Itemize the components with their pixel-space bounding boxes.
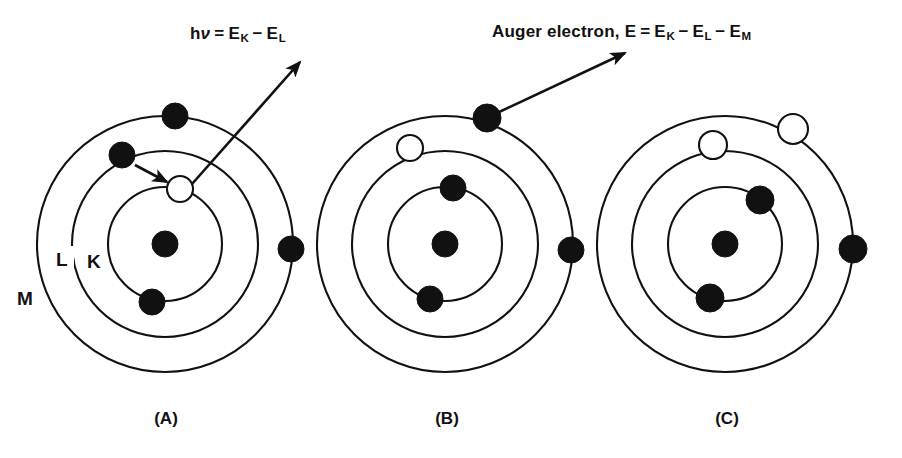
photon-term1: E <box>228 24 240 43</box>
photon-term2-sub: L <box>279 32 286 44</box>
panel-c-electron-k-bottom <box>696 284 724 312</box>
panel-a-shell-label-l: L <box>56 249 68 270</box>
panel-b: (B) <box>317 53 625 428</box>
photon-h: h <box>190 24 201 43</box>
panel-b-electron-m-top <box>473 104 501 132</box>
panel-a-caption: (A) <box>154 409 178 428</box>
panel-a-electron-m-right <box>278 236 304 262</box>
photon-equals: = <box>210 24 228 43</box>
panel-b-electron-k-top <box>440 175 466 201</box>
auger-minus1: − <box>674 22 692 41</box>
auger-electron-formula: Auger electron, E=EK−EL−EM <box>492 22 751 42</box>
panel-a-electron-m-top <box>162 103 188 129</box>
panel-c-vacancy-l <box>699 131 727 159</box>
panel-c-electron-k-top <box>746 186 774 214</box>
panel-b-caption: (B) <box>435 409 459 428</box>
panel-a-shell-label-k: K <box>87 251 101 272</box>
auger-energy-symbol: E <box>625 22 637 41</box>
auger-term2: E <box>693 22 705 41</box>
panel-b-electron-m-right <box>558 237 584 263</box>
panel-b-auger-electron-arrow <box>497 53 625 113</box>
panel-a-electron-transition-arrow <box>135 165 167 182</box>
photon-minus1: − <box>248 24 266 43</box>
panel-c-vacancy-m <box>778 114 808 144</box>
auger-term1-sub: K <box>666 30 675 42</box>
photon-term2: E <box>267 24 279 43</box>
figure-canvas: K L M (A) (B) <box>0 0 902 458</box>
auger-term3-sub: M <box>742 30 752 42</box>
atomic-shell-diagram: K L M (A) (B) <box>0 0 902 458</box>
panel-c-electron-m-right <box>839 235 867 263</box>
auger-equals: = <box>636 22 654 41</box>
panel-a-electron-l-left <box>109 142 135 168</box>
photon-energy-formula: hν=EK−EL <box>190 24 285 44</box>
photon-nu: ν <box>201 24 211 43</box>
panel-c-nucleus <box>712 231 738 257</box>
panel-c: (C) <box>597 114 867 428</box>
auger-lead-text: Auger electron, <box>492 22 620 41</box>
panel-b-vacancy-l <box>397 135 423 161</box>
panel-a-shell-label-m: M <box>17 288 33 309</box>
panel-b-electron-k-bottom <box>417 286 443 312</box>
panel-a-electron-k-bottom <box>139 289 165 315</box>
auger-term2-sub: L <box>705 30 712 42</box>
panel-a-nucleus <box>152 231 178 257</box>
photon-term1-sub: K <box>240 32 249 44</box>
panel-a-vacancy-k <box>167 176 193 202</box>
panel-c-caption: (C) <box>715 409 739 428</box>
auger-minus2: − <box>711 22 729 41</box>
auger-term3: E <box>729 22 741 41</box>
auger-term1: E <box>654 22 666 41</box>
panel-a: K L M (A) <box>14 62 304 428</box>
panel-b-nucleus <box>432 231 458 257</box>
